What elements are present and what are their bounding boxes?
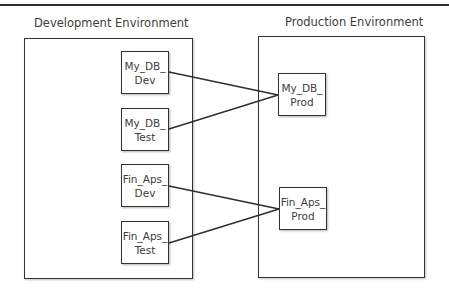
node-my-db-dev: My_DB_ Dev: [121, 51, 169, 94]
node-label-line2: Test: [135, 130, 156, 144]
node-label-line1: Fin_Aps_: [123, 229, 168, 243]
node-fin-aps-prod: Fin_Aps_ Prod: [279, 187, 327, 230]
edge-fin-aps-dev-to-prod: [169, 186, 279, 209]
edge-my-db-dev-to-prod: [169, 72, 278, 95]
node-label-line1: Fin_Aps_: [281, 195, 326, 209]
node-fin-aps-dev: Fin_Aps_ Dev: [121, 164, 169, 207]
edge-my-db-test-to-prod: [169, 95, 278, 129]
edge-fin-aps-test-to-prod: [169, 209, 279, 243]
node-label-line1: My_DB_: [124, 116, 165, 130]
node-label-line2: Test: [135, 243, 156, 257]
node-label-line1: Fin_Aps_: [123, 172, 168, 186]
node-my-db-test: My_DB_ Test: [121, 108, 169, 151]
connection-lines: [0, 0, 449, 293]
node-fin-aps-test: Fin_Aps_ Test: [121, 221, 169, 264]
node-label-line2: Dev: [135, 73, 156, 87]
node-label-line1: My_DB_: [124, 59, 165, 73]
node-label-line2: Dev: [135, 186, 156, 200]
node-label-line2: Prod: [291, 209, 314, 223]
node-my-db-prod: My_DB_ Prod: [278, 73, 326, 116]
node-label-line2: Prod: [290, 95, 313, 109]
node-label-line1: My_DB_: [281, 81, 322, 95]
